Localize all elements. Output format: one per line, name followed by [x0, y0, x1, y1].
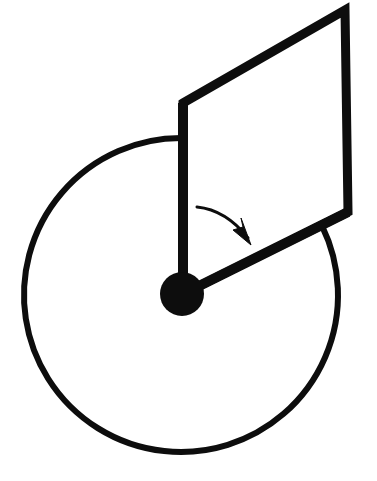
figure-canvas: [0, 0, 377, 481]
pivot-hub: [160, 272, 204, 316]
background-rect: [0, 0, 377, 481]
diagram-svg: [0, 0, 377, 481]
